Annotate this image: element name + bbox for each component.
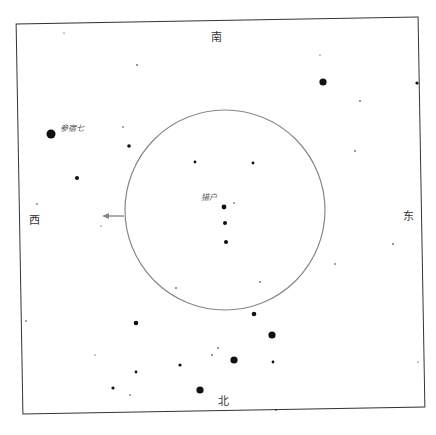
star-dot <box>392 243 394 245</box>
star-dot <box>75 176 79 180</box>
star-dot <box>224 240 228 244</box>
star-dot <box>354 150 356 152</box>
star-dot <box>233 202 234 203</box>
star-dot <box>319 54 320 55</box>
direction-south: 南 <box>211 28 222 44</box>
star-dot <box>36 203 37 204</box>
star-dot <box>275 409 277 411</box>
star-dot <box>136 64 138 66</box>
star-dot <box>100 225 101 226</box>
star-dot <box>417 361 418 362</box>
direction-west: 西 <box>29 211 40 227</box>
star-dot <box>268 331 275 338</box>
star-dot <box>252 162 255 165</box>
star-dot <box>178 363 181 366</box>
stars-group <box>25 32 418 410</box>
direction-arrow-icon <box>102 213 124 219</box>
star-dot <box>129 394 130 395</box>
field-circle <box>125 110 325 310</box>
star-dot <box>63 32 64 33</box>
star-dot <box>259 281 261 283</box>
star-chart <box>0 0 436 435</box>
star-dot <box>47 130 56 139</box>
star-dot <box>222 205 227 210</box>
star-dot <box>252 312 257 317</box>
star-dot <box>272 361 275 364</box>
constellation-label-orion: 猎户 <box>201 191 217 202</box>
star-dot <box>111 386 114 389</box>
star-dot <box>122 126 123 127</box>
direction-north: 北 <box>218 392 229 408</box>
star-dot <box>415 81 418 84</box>
star-dot <box>334 263 335 264</box>
star-dot <box>127 144 131 148</box>
star-dot <box>319 78 326 85</box>
star-dot <box>196 386 203 393</box>
direction-east: 东 <box>403 207 414 223</box>
star-dot <box>217 347 219 349</box>
star-dot <box>230 356 237 363</box>
star-dot <box>134 321 139 326</box>
star-dot <box>223 221 227 225</box>
star-dot <box>25 320 26 321</box>
star-dot <box>359 100 361 102</box>
star-dot <box>175 287 177 289</box>
star-dot <box>135 371 138 374</box>
star-label-rigel: 参宿七 <box>60 122 84 133</box>
star-dot <box>94 354 95 355</box>
star-dot <box>211 354 213 356</box>
star-dot <box>194 161 197 164</box>
